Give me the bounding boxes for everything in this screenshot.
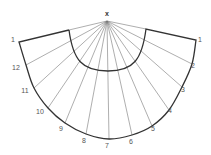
- radial-line: [107, 21, 169, 110]
- radial-line: [107, 21, 182, 87]
- division-label: 5: [151, 125, 155, 132]
- radial-line: [107, 21, 109, 139]
- radial-line: [65, 21, 107, 123]
- division-label: 3: [181, 86, 185, 93]
- radial-line: [107, 21, 192, 64]
- division-label: 12: [12, 64, 20, 71]
- division-label: 6: [129, 138, 133, 145]
- division-label: 11: [21, 87, 28, 94]
- division-label: 9: [59, 125, 63, 132]
- division-label: 10: [36, 108, 44, 115]
- division-label: 1: [11, 36, 15, 43]
- division-label: 7: [105, 142, 109, 149]
- apex-label: x: [105, 10, 109, 17]
- radial-lines: [26, 21, 192, 139]
- division-label: 4: [168, 107, 172, 114]
- division-label: 8: [82, 137, 86, 144]
- division-labels: 1121110987654321: [11, 36, 202, 149]
- radial-line: [86, 21, 107, 134]
- division-label: 1: [198, 36, 202, 43]
- cone-development-diagram: 1121110987654321 x: [0, 0, 211, 155]
- radial-line: [107, 21, 132, 135]
- division-label: 2: [191, 62, 195, 69]
- radial-line: [48, 21, 107, 108]
